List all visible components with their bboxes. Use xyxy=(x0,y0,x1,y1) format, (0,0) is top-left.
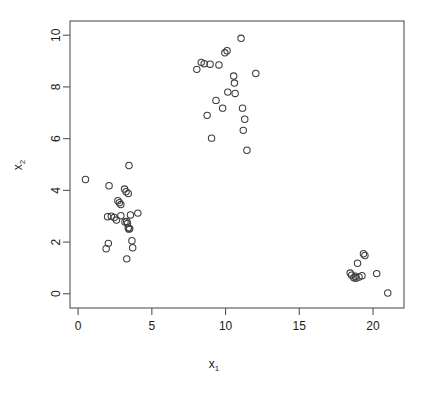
y-tick-label: 4 xyxy=(49,187,63,194)
y-tick-label: 2 xyxy=(49,238,63,245)
x-tick-label: 0 xyxy=(75,319,82,333)
y-tick-label: 8 xyxy=(49,83,63,90)
x-tick-label: 10 xyxy=(219,319,233,333)
x-axis-label-subscript: 1 xyxy=(215,364,220,373)
y-tick-label: 10 xyxy=(49,28,63,42)
plot-canvas: 05101520 0246810 x1 x2 xyxy=(0,0,428,395)
x-tick-label: 15 xyxy=(293,319,307,333)
y-axis-label-subscript: 2 xyxy=(18,159,27,164)
y-tick-label: 6 xyxy=(49,135,63,142)
x-tick-label: 5 xyxy=(148,319,155,333)
y-tick-label: 0 xyxy=(49,290,63,297)
figure-background xyxy=(0,0,428,395)
x-tick-label: 20 xyxy=(366,319,380,333)
scatter-plot-figure: 05101520 0246810 x1 x2 xyxy=(0,0,428,395)
